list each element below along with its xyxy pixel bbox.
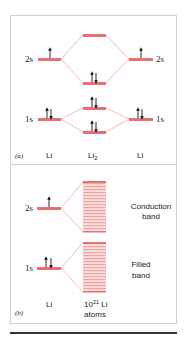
- panel-a-tag: (a): [15, 152, 24, 160]
- filled-band: [83, 242, 106, 293]
- label-2s-b: 2s: [25, 203, 34, 213]
- label-right-2s: 2s: [156, 54, 165, 64]
- level-li2-2s-antibonding: [83, 34, 106, 37]
- label-li-right: Li: [137, 151, 143, 160]
- label-1s-b: 1s: [25, 263, 34, 273]
- band-connectors: [61, 182, 83, 292]
- label-left-2s: 2s: [25, 54, 34, 64]
- level-li-right-2s: [129, 58, 153, 61]
- level-li2-1s-bonding: [83, 131, 106, 134]
- label-li-b: Li: [46, 300, 52, 309]
- conduction-band-label-1: Conduction: [131, 202, 171, 211]
- panel-a-li2-mo-diagram: 2s 2s 1s 1s (a) Li Li2 Li: [10, 15, 177, 165]
- li-band-svg: 2s 1s Conduction band Filled band Li 102…: [11, 165, 178, 325]
- label-li2: Li2: [88, 151, 98, 161]
- filled-band-label-1: Filled: [131, 260, 150, 269]
- atomic-levels: [37, 207, 61, 270]
- conduction-band-label-2: band: [142, 212, 160, 221]
- level-li-left-1s: [38, 118, 61, 121]
- conduction-band: [83, 181, 106, 233]
- level-li-2s: [37, 207, 61, 210]
- label-right-1s: 1s: [156, 114, 165, 124]
- panel-b-tag: (b): [15, 309, 24, 317]
- level-li-right-1s: [129, 118, 153, 121]
- label-li-left: Li: [46, 151, 52, 160]
- label-atoms: atoms: [84, 310, 106, 319]
- bottom-rule: [10, 332, 177, 334]
- label-left-1s: 1s: [25, 114, 34, 124]
- label-1021-li: 1021 Li: [84, 299, 108, 309]
- filled-band-label-2: band: [132, 271, 150, 280]
- level-li2-2s-bonding: [83, 82, 106, 85]
- li2-mo-svg: 2s 2s 1s 1s (a) Li Li2 Li: [11, 16, 178, 166]
- level-li2-1s-antibonding: [83, 107, 106, 110]
- connector-lines-1s: [61, 108, 129, 132]
- level-li-1s: [37, 267, 61, 270]
- connector-lines-2s: [61, 35, 129, 83]
- level-li-left-2s: [38, 58, 61, 61]
- energy-levels: [38, 34, 153, 134]
- panel-b-li-band-diagram: 2s 1s Conduction band Filled band Li 102…: [10, 164, 177, 324]
